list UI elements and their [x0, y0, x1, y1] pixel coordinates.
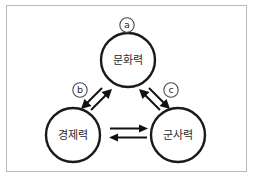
diagram-root: 문화력 경제력 군사력 a b c: [0, 0, 255, 180]
tag-c: c: [164, 83, 178, 97]
node-culture-label: 문화력: [113, 54, 143, 67]
tag-a-letter: a: [124, 19, 130, 30]
tag-b-letter: b: [77, 84, 83, 95]
connector-economy-military: [109, 125, 148, 142]
node-economy-label: 경제력: [58, 129, 88, 142]
tag-b: b: [73, 83, 87, 97]
node-economy[interactable]: 경제력: [46, 108, 100, 162]
node-culture[interactable]: 문화력: [101, 33, 155, 87]
arrowhead-left: [109, 134, 118, 142]
arrowhead-right: [139, 125, 148, 133]
tag-c-letter: c: [168, 84, 173, 95]
node-military-label: 군사력: [163, 129, 193, 142]
diagram-canvas: 문화력 경제력 군사력 a b c: [0, 0, 255, 180]
node-military[interactable]: 군사력: [151, 108, 205, 162]
tag-a: a: [120, 18, 134, 32]
